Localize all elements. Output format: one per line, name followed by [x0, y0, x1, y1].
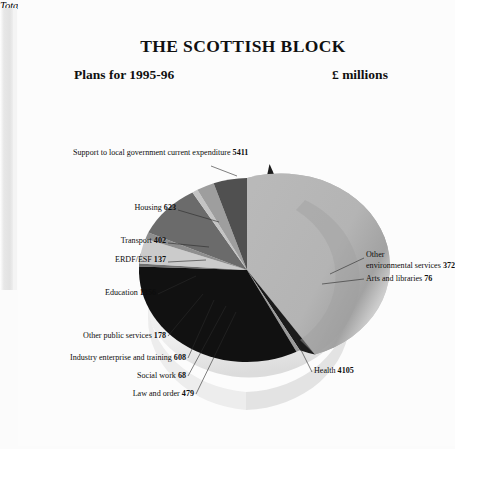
- label-text: Health: [314, 366, 336, 375]
- pie-chart: [0, 0, 486, 449]
- label-text: Other public services: [83, 331, 152, 340]
- label-text-line2: environmental services: [366, 261, 441, 270]
- page-margin-right: [455, 0, 486, 479]
- label-housing: Housing 623: [46, 203, 176, 214]
- label-value: 479: [182, 389, 194, 398]
- scanned-page: THE SCOTTISH BLOCK Plans for 1995-96 £ m…: [0, 0, 486, 479]
- label-law-and-order: Law and order 479: [46, 389, 194, 400]
- label-value: 402: [154, 236, 166, 245]
- label-text: Transport: [121, 236, 152, 245]
- label-value: 5411: [233, 148, 249, 157]
- label-industry-enterprise-and-training: Industry enterprise and training 608: [6, 353, 186, 364]
- label-text: Housing: [134, 203, 161, 212]
- label-value: 68: [178, 371, 186, 380]
- label-support-to-local-government: Support to local government current expe…: [73, 148, 213, 159]
- label-value: 608: [174, 353, 186, 362]
- label-text: Support to local government current expe…: [73, 148, 231, 157]
- label-text: Arts and libraries: [366, 274, 422, 283]
- label-value: 178: [154, 331, 166, 340]
- label-value: 137: [154, 255, 166, 264]
- label-text: Education: [105, 288, 138, 297]
- label-other-public-services: Other public services 178: [16, 331, 166, 342]
- label-value: 372: [443, 261, 455, 270]
- label-value: 1356: [140, 288, 156, 297]
- label-education: Education 1356: [26, 288, 156, 299]
- label-value: 623: [164, 203, 176, 212]
- label-text: ERDF/ESF: [115, 255, 152, 264]
- label-social-work: Social work 68: [36, 371, 186, 382]
- label-text: Law and order: [133, 389, 180, 398]
- label-transport: Transport 402: [46, 236, 166, 247]
- pie-chart-svg: [0, 0, 486, 449]
- label-value: 4105: [338, 366, 354, 375]
- page-margin-bottom: [0, 449, 486, 479]
- label-text: Industry enterprise and training: [70, 353, 172, 362]
- label-erdf-esf: ERDF/ESF 137: [46, 255, 166, 266]
- label-value: 76: [424, 274, 432, 283]
- label-health: Health 4105: [314, 366, 424, 377]
- label-text: Social work: [137, 371, 176, 380]
- label-text-line1: Other: [366, 250, 384, 259]
